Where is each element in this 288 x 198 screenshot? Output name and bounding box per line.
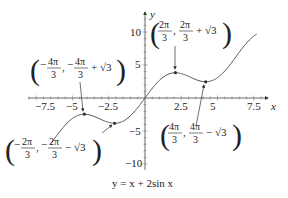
- y-tick-label: −10: [125, 157, 143, 169]
- svg-text:3: 3: [52, 149, 57, 160]
- annotation-p3: ( − 2π 3 , − 2π 3 − √3 ): [5, 133, 102, 167]
- svg-text:− √3: − √3: [206, 126, 227, 138]
- svg-text:,: ,: [36, 141, 39, 153]
- svg-text:−: −: [41, 138, 47, 150]
- svg-text:2π: 2π: [49, 136, 59, 147]
- svg-text:3: 3: [162, 32, 167, 43]
- x-axis-label: x: [270, 100, 276, 112]
- svg-text:(: (: [30, 53, 40, 87]
- svg-text:2π: 2π: [22, 136, 32, 147]
- x-tick-label: −2.5: [98, 100, 118, 112]
- svg-text:−: −: [67, 58, 73, 70]
- svg-text:,: ,: [173, 24, 176, 36]
- svg-text:3: 3: [172, 134, 177, 145]
- svg-text:− √3: − √3: [65, 141, 86, 153]
- arrow-p4: [196, 85, 204, 126]
- svg-text:3: 3: [193, 134, 198, 145]
- svg-text:4π: 4π: [190, 121, 200, 132]
- arrow-p1: [80, 82, 83, 111]
- point-local-max-left: [83, 113, 86, 116]
- y-tick-label: 5: [135, 58, 141, 70]
- svg-text:): ): [116, 53, 126, 87]
- x-tick-label: 5: [210, 100, 216, 112]
- arrow-p3: [102, 125, 112, 133]
- chart: −7.5 −5 −2.5 2.5 5 7.5 x 10 5 −5 −10 y (…: [0, 0, 288, 198]
- svg-text:2π: 2π: [159, 19, 169, 30]
- svg-text:−: −: [14, 138, 20, 150]
- svg-text:+ √3: + √3: [196, 24, 217, 36]
- y-tick-label: −5: [129, 125, 141, 137]
- x-tick-label: −7.5: [35, 100, 55, 112]
- y-tick-label: 10: [130, 26, 142, 38]
- annotation-p4: ( 4π 3 , 4π 3 − √3 ): [160, 118, 242, 152]
- annotation-p2: ( 2π 3 , 2π 3 + √3 ): [150, 16, 232, 50]
- svg-text:): ): [222, 16, 232, 50]
- svg-text:3: 3: [183, 32, 188, 43]
- x-tick-label: −5: [66, 100, 78, 112]
- point-local-max-right: [174, 71, 177, 74]
- svg-text:−: −: [40, 58, 46, 70]
- svg-text:4π: 4π: [75, 56, 85, 67]
- svg-text:,: ,: [62, 61, 65, 73]
- svg-text:,: ,: [183, 126, 186, 138]
- point-local-min-right: [204, 80, 207, 83]
- x-tick-label: 2.5: [174, 100, 188, 112]
- svg-text:3: 3: [51, 69, 56, 80]
- svg-text:4π: 4π: [169, 121, 179, 132]
- svg-text:3: 3: [78, 69, 83, 80]
- svg-text:): ): [92, 133, 102, 167]
- chart-caption: y = x + 2sin x: [112, 177, 173, 189]
- x-tick-labels: −7.5 −5 −2.5 2.5 5 7.5 x: [35, 100, 276, 112]
- annotation-p1: ( − 4π 3 , − 4π 3 + √3 ): [30, 53, 126, 87]
- svg-text:): ): [232, 118, 242, 152]
- svg-text:4π: 4π: [48, 56, 58, 67]
- svg-text:3: 3: [25, 149, 30, 160]
- svg-text:+ √3: + √3: [91, 61, 112, 73]
- point-local-min-left: [113, 122, 116, 125]
- x-tick-label: 7.5: [247, 100, 261, 112]
- svg-text:2π: 2π: [180, 19, 190, 30]
